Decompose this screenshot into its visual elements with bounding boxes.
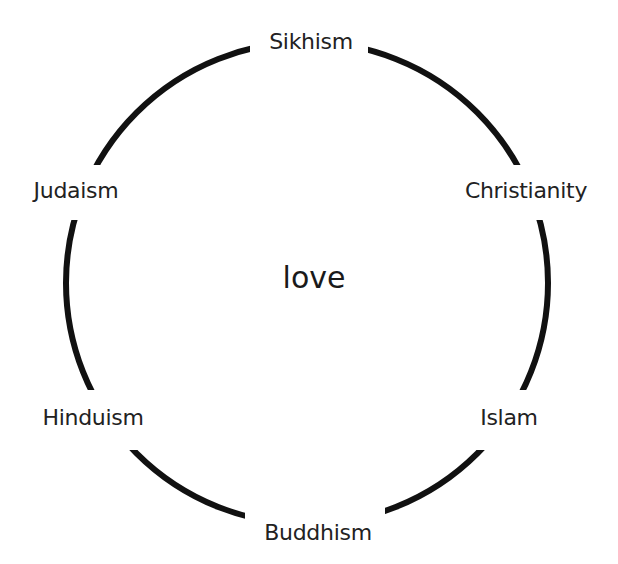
center-label-love: love [283, 263, 346, 293]
node-christianity: Christianity [465, 180, 587, 202]
node-buddhism: Buddhism [264, 522, 372, 544]
node-sikhism: Sikhism [269, 31, 353, 53]
node-hinduism: Hinduism [42, 407, 143, 429]
node-judaism: Judaism [34, 180, 119, 202]
node-islam: Islam [480, 407, 537, 429]
